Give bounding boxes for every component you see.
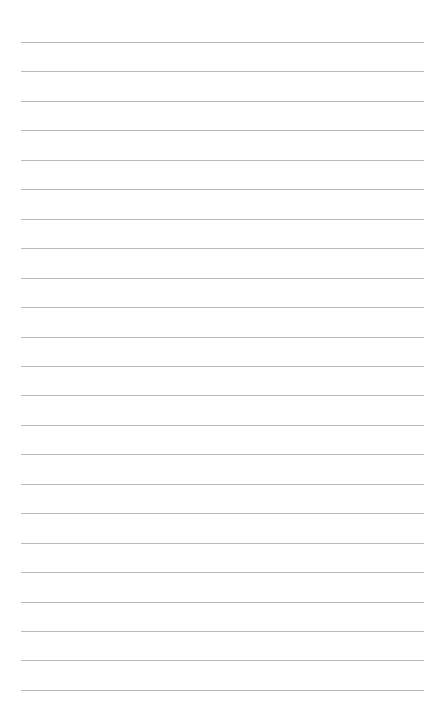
ruled-line: [21, 602, 424, 603]
ruled-line: [21, 543, 424, 544]
ruled-line: [21, 160, 424, 161]
ruled-line: [21, 366, 424, 367]
lined-paper-page: [0, 0, 443, 720]
ruled-line: [21, 484, 424, 485]
ruled-line: [21, 337, 424, 338]
ruled-line: [21, 42, 424, 43]
ruled-line: [21, 219, 424, 220]
ruled-line: [21, 631, 424, 632]
ruled-line: [21, 572, 424, 573]
ruled-line: [21, 71, 424, 72]
ruled-line: [21, 278, 424, 279]
ruled-line: [21, 454, 424, 455]
ruled-line: [21, 248, 424, 249]
ruled-line: [21, 189, 424, 190]
ruled-line: [21, 425, 424, 426]
ruled-line: [21, 101, 424, 102]
ruled-line: [21, 130, 424, 131]
ruled-line: [21, 307, 424, 308]
ruled-line: [21, 690, 424, 691]
ruled-line: [21, 513, 424, 514]
ruled-line: [21, 395, 424, 396]
ruled-line: [21, 660, 424, 661]
